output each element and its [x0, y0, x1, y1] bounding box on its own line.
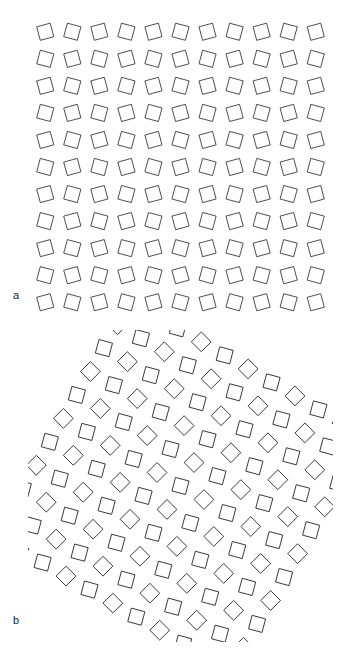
- panel-label-a: a: [13, 289, 19, 301]
- tiling-figure-b: [28, 330, 333, 642]
- tiling-panel-a: [28, 14, 333, 320]
- tiling-figure-a: [28, 14, 333, 320]
- panel-label-b: b: [13, 614, 19, 626]
- tiling-panel-b: [28, 330, 333, 642]
